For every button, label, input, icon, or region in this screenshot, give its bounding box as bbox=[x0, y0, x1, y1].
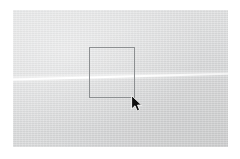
screenshot-root: Light gray textured photographic surface bbox=[0, 0, 240, 159]
photo-canvas[interactable] bbox=[13, 10, 228, 147]
canvas-description: Light gray textured photographic surface bbox=[0, 0, 1, 1]
selection-rectangle[interactable] bbox=[89, 47, 135, 98]
